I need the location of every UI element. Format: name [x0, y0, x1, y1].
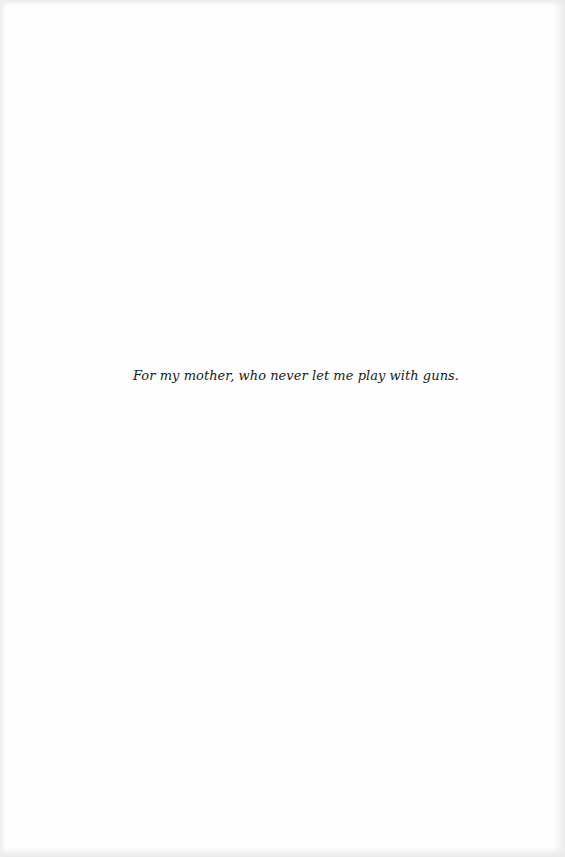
- scan-edge-right: [553, 0, 565, 857]
- scan-edge-bottom: [0, 847, 565, 857]
- book-page: For my mother, who never let me play wit…: [0, 0, 565, 857]
- scan-edge-left: [0, 0, 6, 857]
- scan-edge-top: [0, 0, 565, 6]
- dedication-text: For my mother, who never let me play wit…: [133, 368, 459, 383]
